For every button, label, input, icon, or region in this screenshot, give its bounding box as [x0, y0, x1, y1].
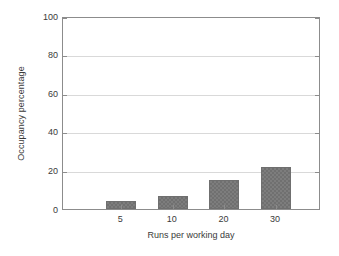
y-axis-tick-mark [315, 56, 319, 57]
x-axis-tick-labels: 5102030 [62, 214, 320, 226]
y-axis-tick-label: 100 [33, 13, 58, 22]
y-axis-tick-mark [315, 95, 319, 96]
y-axis-tick-mark [315, 172, 319, 173]
y-axis-tick-mark [315, 133, 319, 134]
gridline [63, 95, 319, 96]
plot-area [62, 17, 320, 210]
y-axis-tick-mark [315, 18, 319, 19]
x-axis-tick-mark [276, 205, 277, 209]
y-axis-tick-label: 60 [33, 90, 58, 99]
y-axis-tick-label: 80 [33, 51, 58, 60]
gridline [63, 56, 319, 57]
x-axis-tick-mark [121, 205, 122, 209]
y-axis-tick-mark [63, 133, 67, 134]
y-axis-tick-mark [63, 18, 67, 19]
x-axis-tick-label: 10 [167, 214, 177, 224]
y-axis-tick-label: 20 [33, 167, 58, 176]
x-axis-tick-mark [173, 205, 174, 209]
y-axis-tick-label: 0 [33, 206, 58, 215]
y-axis-tick-labels: 020406080100 [33, 0, 58, 256]
x-axis-tick-mark [224, 205, 225, 209]
bar [261, 167, 291, 209]
x-axis-tick-label: 5 [118, 214, 123, 224]
x-axis-title: Runs per working day [62, 230, 320, 241]
y-axis-tick-label: 40 [33, 128, 58, 137]
y-axis-tick-mark [63, 56, 67, 57]
y-axis-title: Occupancy percentage [14, 17, 28, 210]
x-axis-tick-label: 20 [218, 214, 228, 224]
y-axis-tick-mark [63, 172, 67, 173]
gridline [63, 133, 319, 134]
bar-chart-figure: Occupancy percentage 020406080100 510203… [0, 0, 339, 256]
y-axis-tick-mark [63, 95, 67, 96]
x-axis-tick-label: 30 [270, 214, 280, 224]
